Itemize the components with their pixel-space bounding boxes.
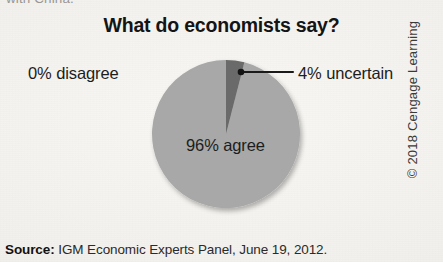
- pie-label-agree: 96% agree: [186, 136, 265, 155]
- source-note: Source: IGM Economic Experts Panel, June…: [5, 242, 327, 257]
- copyright-credit: © 2018 Cengage Learning: [405, 5, 420, 195]
- source-label: Source:: [5, 242, 55, 257]
- pie-chart: [0, 0, 443, 262]
- pie-label-uncertain: 4% uncertain: [298, 64, 393, 83]
- pie-label-disagree: 0% disagree: [28, 64, 119, 83]
- source-text: IGM Economic Experts Panel, June 19, 201…: [55, 242, 328, 257]
